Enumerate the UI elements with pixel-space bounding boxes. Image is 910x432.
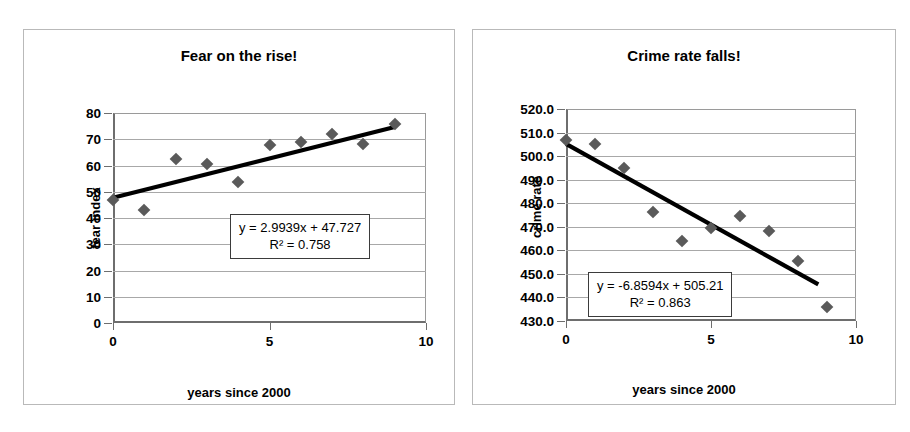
y-tick: [557, 321, 565, 322]
y-tick-label: 480.0: [520, 196, 554, 211]
equation-text-crime: y = -6.8594x + 505.21: [597, 278, 723, 293]
y-tick-label: 460.0: [520, 243, 554, 258]
plot-area-crime: crime rate 430.0440.0450.0460.0470.0480.…: [566, 109, 856, 321]
y-tick-label: 30: [86, 237, 101, 252]
x-tick-label: 5: [266, 334, 274, 349]
r-squared-text-crime: R² = 0.863: [597, 294, 723, 311]
x-tick: [426, 323, 427, 330]
y-tick: [557, 250, 565, 251]
equation-text-fear: y = 2.9939x + 47.727: [239, 220, 361, 235]
y-tick: [104, 113, 112, 114]
y-tick: [104, 218, 112, 219]
y-tick: [557, 227, 565, 228]
chart-title-crime: Crime rate falls!: [473, 47, 895, 64]
y-tick-label: 80: [86, 106, 101, 121]
x-tick: [711, 321, 712, 328]
x-tick: [566, 321, 567, 328]
x-axis-title-crime: years since 2000: [473, 382, 895, 397]
y-tick-label: 490.0: [520, 172, 554, 187]
y-tick: [557, 274, 565, 275]
r-squared-text-fear: R² = 0.758: [239, 236, 361, 253]
y-tick-label: 510.0: [520, 125, 554, 140]
x-tick-label: 0: [562, 332, 570, 347]
y-tick: [104, 244, 112, 245]
chart-panel-fear: Fear on the rise! fear index 01020304050…: [23, 29, 455, 405]
y-tick-label: 60: [86, 158, 101, 173]
y-tick: [557, 133, 565, 134]
y-tick-label: 470.0: [520, 219, 554, 234]
chart-pair-container: Fear on the rise! fear index 01020304050…: [0, 0, 910, 432]
equation-box-crime: y = -6.8594x + 505.21 R² = 0.863: [588, 272, 732, 317]
y-tick: [104, 139, 112, 140]
x-tick-label: 10: [848, 332, 863, 347]
y-tick-label: 450.0: [520, 266, 554, 281]
x-tick-label: 10: [418, 334, 433, 349]
y-tick-label: 70: [86, 132, 101, 147]
y-tick-label: 50: [86, 184, 101, 199]
y-tick: [104, 166, 112, 167]
y-tick-label: 20: [86, 263, 101, 278]
x-tick-label: 0: [109, 334, 117, 349]
y-tick-label: 10: [86, 289, 101, 304]
equation-box-fear: y = 2.9939x + 47.727 R² = 0.758: [230, 214, 370, 259]
y-tick-label: 40: [86, 211, 101, 226]
y-tick-label: 0: [93, 316, 101, 331]
chart-panel-crime: Crime rate falls! crime rate 430.0440.04…: [472, 29, 896, 405]
x-tick: [270, 323, 271, 330]
y-tick: [557, 203, 565, 204]
y-tick: [557, 156, 565, 157]
y-tick: [557, 297, 565, 298]
trendline-segment: [566, 144, 818, 285]
x-tick: [113, 323, 114, 330]
x-axis-title-fear: years since 2000: [24, 385, 454, 400]
y-tick-label: 440.0: [520, 290, 554, 305]
y-tick-label: 430.0: [520, 314, 554, 329]
y-tick: [557, 109, 565, 110]
y-tick-label: 500.0: [520, 149, 554, 164]
y-tick: [104, 192, 112, 193]
chart-title-fear: Fear on the rise!: [24, 47, 454, 64]
x-tick: [856, 321, 857, 328]
y-tick: [104, 323, 112, 324]
y-tick-label: 520.0: [520, 102, 554, 117]
x-tick-label: 5: [707, 332, 715, 347]
y-tick: [557, 180, 565, 181]
plot-area-fear: fear index 01020304050607080 0510 y = 2.…: [113, 113, 426, 323]
trendline-segment: [113, 127, 395, 198]
y-tick: [104, 297, 112, 298]
y-tick: [104, 271, 112, 272]
